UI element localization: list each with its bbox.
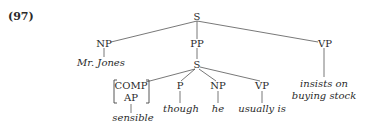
node-p: P bbox=[177, 81, 184, 91]
edge-s-vp bbox=[197, 21, 318, 42]
node-ap: AP bbox=[124, 93, 138, 103]
node-pp: PP bbox=[190, 39, 203, 49]
leaf-though: though bbox=[163, 104, 199, 114]
leaf-usually-is: usually is bbox=[238, 104, 286, 114]
node-np-subject: NP bbox=[96, 39, 111, 49]
edge-s-vp2 bbox=[200, 67, 260, 81]
node-s-embedded: S bbox=[194, 60, 201, 70]
syntax-tree-diagram: (97) S NP Mr. Jones PP S VP insists on b… bbox=[0, 0, 368, 124]
leaf-mr-jones: Mr. Jones bbox=[77, 58, 125, 68]
leaf-sensible: sensible bbox=[112, 113, 153, 123]
leaf-buying-stock: buying stock bbox=[292, 91, 357, 101]
example-number: (97) bbox=[8, 11, 34, 22]
leaf-insists-on: insists on bbox=[300, 79, 348, 89]
node-s-root: S bbox=[194, 12, 201, 22]
edge-s-np bbox=[111, 21, 197, 42]
node-vp-main: VP bbox=[318, 39, 332, 49]
node-np-he: NP bbox=[210, 81, 225, 91]
node-vp-embedded: VP bbox=[255, 81, 269, 91]
node-comp: COMP bbox=[115, 81, 148, 91]
leaf-he: he bbox=[212, 104, 224, 114]
